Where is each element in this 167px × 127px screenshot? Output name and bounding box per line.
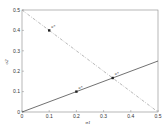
data-point-label: u* xyxy=(78,85,82,90)
solid-line xyxy=(22,61,158,112)
dash-dot-line xyxy=(22,10,158,112)
ticks: 0.10.20.30.40.500.10.20.30.40.50 xyxy=(13,7,162,119)
y-tick-label: 0.3 xyxy=(13,48,20,54)
y-tick-label: 0.1 xyxy=(13,88,20,94)
x-tick-label: 0.2 xyxy=(73,113,80,119)
data-point-label: u* xyxy=(115,71,119,76)
x-tick-label: 0.5 xyxy=(155,113,162,119)
y-axis-label: σ2 xyxy=(4,59,9,64)
data-point-marker xyxy=(48,29,50,31)
x-tick-label: 0.4 xyxy=(127,113,134,119)
chart: 0.10.20.30.40.500.10.20.30.40.50 u*u*u* … xyxy=(0,0,167,127)
series-lines xyxy=(22,10,158,112)
data-point-marker xyxy=(111,77,113,79)
y-tick-label: 0.5 xyxy=(13,7,20,13)
data-point-label: u* xyxy=(51,24,55,29)
x-tick-label: 0 xyxy=(21,113,24,119)
data-points: u*u*u* xyxy=(48,24,119,93)
y-tick-label: 0.4 xyxy=(13,27,20,33)
data-point-marker xyxy=(75,90,77,92)
x-tick-label: 0.1 xyxy=(46,113,53,119)
x-axis-label: σ1 xyxy=(86,120,91,125)
y-tick-label: 0.2 xyxy=(13,68,20,74)
x-tick-label: 0.3 xyxy=(100,113,107,119)
